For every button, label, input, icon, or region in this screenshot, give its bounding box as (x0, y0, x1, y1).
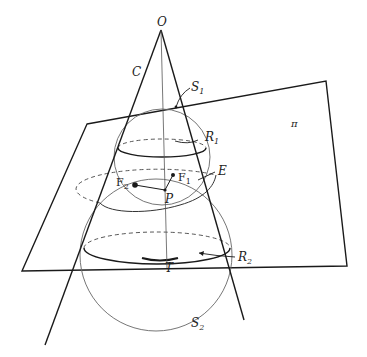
label-point-p: P (164, 192, 174, 206)
cone-left-line (45, 30, 161, 345)
label-circle-r2: R2 (237, 250, 252, 266)
ellipse-e-back (76, 169, 216, 203)
label-ellipse-e: E (217, 164, 227, 178)
label-cone-c: C (132, 65, 141, 79)
circle-r1-front (118, 148, 206, 157)
dandelin-spheres-diagram: O C S1 R1 π E F1 F2 P T R2 S2 (0, 0, 367, 357)
s1-leader-dot (175, 106, 178, 109)
label-circle-r1: R1 (204, 130, 219, 146)
circle-r2-front (84, 248, 230, 264)
label-point-t: T (165, 261, 174, 275)
label-apex-o: O (157, 15, 167, 29)
sphere-s2 (80, 179, 232, 331)
label-sphere-s1: S1 (191, 80, 204, 96)
label-focus-f1: F1 (178, 171, 191, 186)
e-leader (198, 172, 215, 180)
circle-r2-back (84, 232, 230, 248)
label-focus-f2: F2 (116, 176, 129, 191)
label-plane-pi: π (290, 118, 298, 129)
focus-f2-point (132, 182, 138, 188)
focus-f1-point (171, 173, 175, 177)
segment-p-f1 (165, 175, 173, 190)
r2-arrowhead (199, 251, 204, 256)
segment-p-f2 (135, 185, 165, 190)
label-sphere-s2: S2 (191, 316, 204, 332)
